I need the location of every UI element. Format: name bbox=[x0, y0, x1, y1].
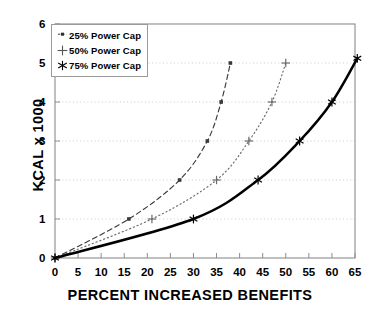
x-tick-label: 45 bbox=[256, 266, 269, 278]
x-tick-label: 20 bbox=[141, 266, 154, 278]
x-tick-label: 15 bbox=[118, 266, 131, 278]
x-tick-label: 0 bbox=[52, 266, 58, 278]
star-marker-icon bbox=[56, 60, 69, 71]
data-point-marker bbox=[127, 217, 131, 221]
series-3 bbox=[51, 54, 361, 262]
x-tick-label: 50 bbox=[279, 266, 292, 278]
square-marker-icon bbox=[56, 30, 69, 41]
x-tick-label: 35 bbox=[210, 266, 223, 278]
x-tick-label: 40 bbox=[233, 266, 246, 278]
x-tick-label: 25 bbox=[164, 266, 177, 278]
y-tick-label: 6 bbox=[39, 18, 45, 30]
y-tick-label: 1 bbox=[39, 213, 45, 225]
series-2 bbox=[51, 59, 290, 262]
chart-figure: 25% Power Cap 50% Power Cap 75% Power Ca… bbox=[0, 0, 380, 315]
x-tick-label: 55 bbox=[302, 266, 315, 278]
x-tick-label: 65 bbox=[349, 266, 362, 278]
series-line bbox=[55, 63, 230, 258]
x-axis-title-wrap: PERCENT INCREASED BENEFITS bbox=[0, 286, 380, 304]
plus-marker-icon bbox=[56, 45, 69, 56]
y-tick-label: 0 bbox=[39, 252, 45, 264]
chart-legend: 25% Power Cap 50% Power Cap 75% Power Ca… bbox=[51, 24, 148, 77]
x-tick-label: 60 bbox=[326, 266, 339, 278]
legend-item-75: 75% Power Cap bbox=[56, 58, 141, 73]
legend-item-50: 50% Power Cap bbox=[56, 43, 141, 58]
legend-label-75: 75% Power Cap bbox=[69, 60, 141, 71]
legend-label-25: 25% Power Cap bbox=[69, 30, 141, 41]
data-point-marker bbox=[229, 61, 233, 65]
y-tick-label: 4 bbox=[39, 96, 45, 108]
x-tick-label: 10 bbox=[95, 266, 108, 278]
data-point-marker bbox=[206, 139, 210, 143]
y-tick-label: 2 bbox=[39, 174, 45, 186]
legend-item-25: 25% Power Cap bbox=[56, 28, 141, 43]
y-tick-label: 3 bbox=[39, 135, 45, 147]
series-line bbox=[55, 63, 286, 258]
series-1 bbox=[53, 61, 232, 260]
x-axis-title: PERCENT INCREASED BENEFITS bbox=[68, 287, 313, 303]
data-point-marker bbox=[178, 178, 182, 182]
series-line bbox=[55, 58, 357, 258]
legend-label-50: 50% Power Cap bbox=[69, 45, 141, 56]
data-point-marker bbox=[219, 100, 223, 104]
x-tick-label: 30 bbox=[187, 266, 200, 278]
y-tick-label: 5 bbox=[39, 57, 45, 69]
x-tick-label: 5 bbox=[75, 266, 81, 278]
